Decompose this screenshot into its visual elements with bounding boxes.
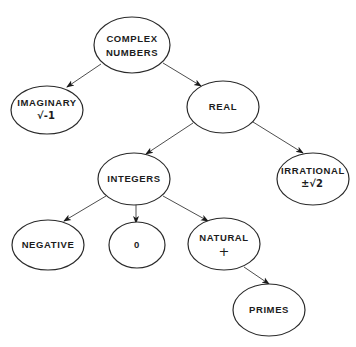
edge-integers-to-natural — [163, 196, 208, 221]
node-label: NATURAL — [199, 232, 248, 243]
node-natural: NATURAL + — [188, 218, 260, 270]
node-label: IRRATIONAL — [281, 165, 345, 176]
edge-real-to-integers — [146, 123, 193, 154]
node-label: IMAGINARY — [17, 97, 76, 108]
node-label: COMPLEX — [106, 33, 157, 44]
node-negative: NEGATIVE — [12, 220, 84, 270]
node-label: REAL — [209, 101, 237, 112]
node-label: 0 — [134, 239, 140, 250]
node-zero: 0 — [109, 222, 165, 268]
node-complex-numbers: COMPLEX NUMBERS — [94, 17, 170, 73]
node-primes: PRIMES — [233, 284, 305, 336]
node-label-line2: NUMBERS — [106, 47, 158, 58]
edge-complex-to-real — [163, 63, 201, 86]
plus-symbol: + — [219, 244, 230, 259]
sqrt-minus-one-symbol: √-1 — [37, 110, 55, 121]
plus-minus-sqrt-two-symbol: ±√2 — [301, 178, 323, 189]
edge-complex-to-imaginary — [67, 64, 101, 87]
node-ellipse — [94, 17, 170, 73]
node-label: INTEGERS — [107, 173, 160, 184]
node-irrational: IRRATIONAL ±√2 — [277, 153, 349, 205]
edge-real-to-irrational — [253, 122, 303, 153]
node-imaginary: IMAGINARY √-1 — [11, 86, 83, 134]
node-label: PRIMES — [249, 304, 289, 315]
node-label: NEGATIVE — [22, 239, 75, 250]
number-tree-diagram: COMPLEX NUMBERS IMAGINARY √-1 REAL INTEG… — [0, 0, 356, 347]
node-integers: INTEGERS — [98, 153, 170, 205]
node-real: REAL — [187, 81, 259, 133]
edge-integers-to-negative — [64, 196, 106, 221]
edge-natural-to-primes — [244, 267, 269, 284]
